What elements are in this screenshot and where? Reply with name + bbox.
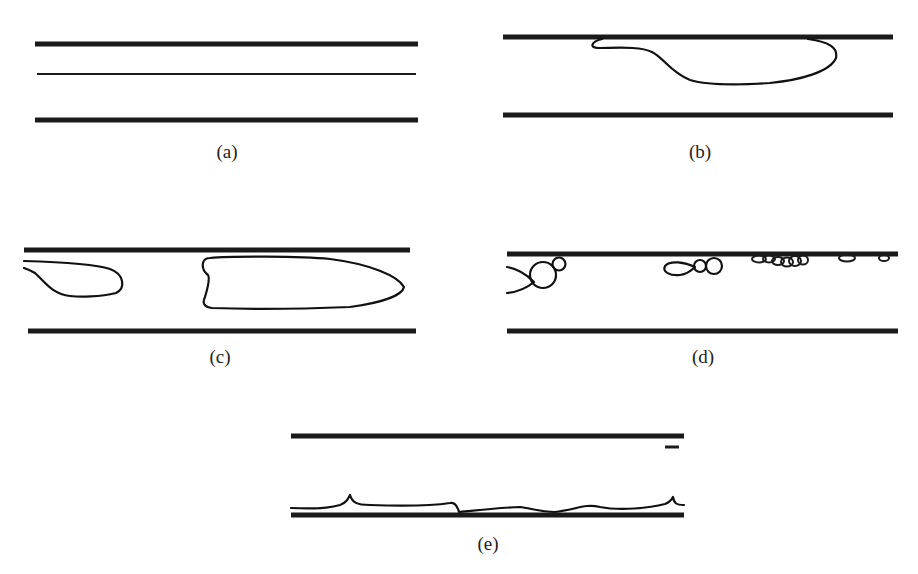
panel-c-label: (c) [209, 346, 230, 368]
panel-c-left-bubble [24, 261, 122, 297]
panel-a-label: (a) [216, 141, 237, 163]
panel-d-teardrop-bubble [664, 262, 695, 275]
panel-d: (d) [507, 254, 898, 368]
panel-a: (a) [35, 44, 418, 163]
panel-d-mid-small-bubble [694, 260, 706, 272]
panel-d-left-small-bubble [553, 258, 566, 271]
panel-e-wavy-film [291, 495, 684, 512]
panel-b-label: (b) [689, 141, 711, 163]
panel-e: (e) [291, 436, 684, 555]
flow-regime-figure: (a) (b) (c) [0, 0, 918, 574]
panel-e-label: (e) [477, 533, 498, 555]
panel-c-right-slug [203, 257, 404, 309]
panel-d-mid-bubble [706, 258, 722, 274]
panel-b-bubble [592, 39, 836, 85]
panel-d-label: (d) [692, 346, 714, 368]
panel-d-tiny-bubble-cluster [752, 256, 808, 267]
panel-d-tiny-bubble-end [879, 255, 889, 261]
panel-b: (b) [503, 37, 893, 163]
panel-c: (c) [24, 250, 416, 368]
